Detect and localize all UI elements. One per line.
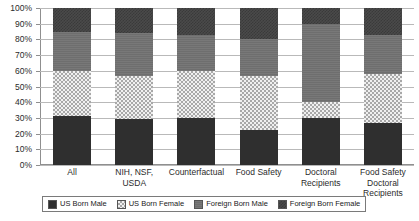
y-axis-tick-label: 70% bbox=[15, 51, 32, 60]
bars-layer bbox=[41, 8, 414, 165]
x-axis-tick-label: Food Safety bbox=[228, 167, 290, 199]
bar-group[interactable] bbox=[228, 8, 290, 165]
legend-label: US Born Female bbox=[129, 200, 184, 208]
y-axis-tick-label: 20% bbox=[15, 129, 32, 138]
bar-segment[interactable] bbox=[302, 102, 340, 118]
bar-stack bbox=[364, 8, 402, 165]
y-axis-tick-label: 0% bbox=[20, 161, 32, 170]
bar-group[interactable] bbox=[352, 8, 414, 165]
bar-segment[interactable] bbox=[115, 76, 153, 120]
bar-segment[interactable] bbox=[177, 71, 215, 118]
y-axis-tick-label: 10% bbox=[15, 145, 32, 154]
legend-label: Foreign Born Female bbox=[290, 200, 360, 208]
y-tick-mark bbox=[36, 55, 40, 56]
bar-segment[interactable] bbox=[240, 39, 278, 75]
x-axis-tick-label: All bbox=[41, 167, 103, 199]
bar-segment[interactable] bbox=[177, 8, 215, 35]
legend-item[interactable]: US Born Female bbox=[117, 200, 184, 209]
bar-segment[interactable] bbox=[240, 8, 278, 39]
x-axis: AllNIH, NSF, USDACounterfactualFood Safe… bbox=[41, 167, 414, 199]
y-axis-tick-label: 100% bbox=[10, 4, 32, 13]
bar-segment[interactable] bbox=[364, 74, 402, 123]
y-tick-mark bbox=[36, 71, 40, 72]
bar-segment[interactable] bbox=[364, 8, 402, 35]
bar-segment[interactable] bbox=[302, 8, 340, 24]
legend-item[interactable]: Foreign Born Female bbox=[278, 200, 360, 209]
bar-stack bbox=[115, 8, 153, 165]
speckle-dark-swatch bbox=[278, 200, 287, 209]
bar-segment[interactable] bbox=[53, 8, 91, 32]
bar-segment[interactable] bbox=[115, 8, 153, 33]
y-tick-mark bbox=[36, 149, 40, 150]
solid-gray-swatch bbox=[194, 200, 203, 209]
bar-segment[interactable] bbox=[115, 33, 153, 75]
y-tick-mark bbox=[36, 134, 40, 135]
y-axis-tick-label: 80% bbox=[15, 35, 32, 44]
bar-segment[interactable] bbox=[240, 76, 278, 131]
y-tick-mark bbox=[36, 102, 40, 103]
y-tick-mark bbox=[36, 165, 40, 166]
legend-label: Foreign Born Male bbox=[206, 200, 268, 208]
y-tick-mark bbox=[36, 39, 40, 40]
y-tick-mark bbox=[36, 8, 40, 9]
y-axis-tick-label: 50% bbox=[15, 82, 32, 91]
y-tick-mark bbox=[36, 87, 40, 88]
legend-item[interactable]: US Born Male bbox=[48, 200, 107, 209]
bar-segment[interactable] bbox=[53, 71, 91, 117]
legend-label: US Born Male bbox=[60, 200, 107, 208]
y-tick-mark bbox=[36, 118, 40, 119]
chart-legend: US Born MaleUS Born FemaleForeign Born M… bbox=[42, 196, 366, 212]
bar-segment[interactable] bbox=[364, 35, 402, 74]
y-axis-tick-label: 90% bbox=[15, 19, 32, 28]
bar-group[interactable] bbox=[165, 8, 227, 165]
x-axis-tick-label: Food Safety Doctoral Recipients bbox=[352, 167, 414, 199]
bar-segment[interactable] bbox=[115, 119, 153, 165]
bar-stack bbox=[177, 8, 215, 165]
y-axis-tick-label: 30% bbox=[15, 113, 32, 122]
y-axis: 0%10%20%30%40%50%60%70%80%90%100% bbox=[0, 8, 36, 165]
gridline bbox=[40, 165, 414, 166]
y-axis-tick-label: 60% bbox=[15, 66, 32, 75]
y-tick-mark bbox=[36, 24, 40, 25]
bar-segment[interactable] bbox=[53, 116, 91, 165]
bar-segment[interactable] bbox=[177, 118, 215, 165]
bar-segment[interactable] bbox=[364, 123, 402, 165]
bar-segment[interactable] bbox=[240, 130, 278, 165]
bar-segment[interactable] bbox=[177, 35, 215, 71]
bar-stack bbox=[302, 8, 340, 165]
legend-item[interactable]: Foreign Born Male bbox=[194, 200, 268, 209]
x-axis-tick-label: Doctoral Recipients bbox=[290, 167, 352, 199]
bar-segment[interactable] bbox=[302, 24, 340, 103]
x-axis-tick-label: Counterfactual bbox=[165, 167, 227, 199]
y-axis-tick-label: 40% bbox=[15, 98, 32, 107]
bar-stack bbox=[240, 8, 278, 165]
checker-light-swatch bbox=[117, 200, 126, 209]
bar-group[interactable] bbox=[41, 8, 103, 165]
stacked-bar-chart: 0%10%20%30%40%50%60%70%80%90%100% AllNIH… bbox=[0, 0, 419, 221]
solid-dark-swatch bbox=[48, 200, 57, 209]
bar-segment[interactable] bbox=[302, 118, 340, 165]
bar-segment[interactable] bbox=[53, 32, 91, 71]
x-axis-tick-label: NIH, NSF, USDA bbox=[103, 167, 165, 199]
bar-group[interactable] bbox=[103, 8, 165, 165]
bar-group[interactable] bbox=[290, 8, 352, 165]
bar-stack bbox=[53, 8, 91, 165]
